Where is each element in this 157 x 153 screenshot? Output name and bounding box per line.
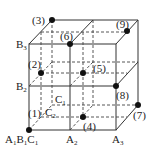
point-label-5: (5) (93, 62, 106, 75)
label-c2: C2 (45, 106, 56, 120)
point-5 (80, 70, 86, 76)
point-label-4: (4) (83, 120, 96, 133)
point-label-2: (2) (28, 58, 41, 71)
point-label-1: (1) (28, 107, 41, 120)
point-3 (49, 17, 55, 23)
label-a2: A2 (66, 133, 78, 147)
point-label-7: (7) (133, 109, 146, 122)
point-label-8: (8) (116, 89, 129, 102)
label-a1b1c1: A1B1C1 (5, 133, 39, 147)
point-label-9: (9) (116, 18, 129, 31)
cube-diagram: (1) (2) (3) (4) (5) (6) (7) (8) (9) B3 B… (0, 0, 157, 153)
label-b3: B3 (16, 38, 27, 52)
label-b2: B2 (16, 80, 27, 94)
design-points (26, 17, 141, 133)
label-c1: C1 (55, 93, 66, 107)
point-2 (38, 70, 44, 76)
point-label-3: (3) (32, 14, 45, 27)
label-a3: A3 (112, 133, 124, 147)
point-7 (135, 102, 141, 108)
point-label-6: (6) (60, 30, 73, 43)
